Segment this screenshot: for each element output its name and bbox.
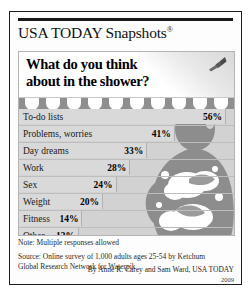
water-droplet	[151, 98, 165, 109]
bar-row: Sex24%	[19, 177, 234, 194]
byline-block: By Anne R. Carey and Sam Ward, USA TODAY…	[88, 265, 234, 283]
water-droplet	[193, 98, 207, 109]
droplet-band	[19, 98, 234, 109]
bars-area: To-do lists56%Problems, worries41%Day dr…	[19, 109, 234, 236]
bar: Weight20%	[19, 194, 103, 209]
snapshot-frame: USA TODAY Snapshots® What do you think a…	[9, 11, 242, 285]
bar: To-do lists56%	[19, 109, 226, 124]
water-droplet	[67, 98, 81, 109]
chart-title-line-1: What do you think	[26, 56, 149, 73]
brand-text: USA TODAY Snapshots	[18, 24, 167, 41]
bar: Other13%	[19, 228, 79, 236]
chart-panel: What do you think about in the shower?	[18, 51, 235, 236]
bar-value: 41%	[144, 129, 171, 139]
bar-row: Weight20%	[19, 194, 234, 211]
water-droplet	[25, 98, 39, 109]
bar-value: 13%	[48, 231, 75, 237]
bar-label: Sex	[23, 180, 37, 190]
water-droplet	[172, 98, 186, 109]
water-droplet	[130, 98, 144, 109]
bar-value: 14%	[51, 214, 78, 224]
byline-credit: By Anne R. Carey and Sam Ward, USA TODAY	[88, 265, 234, 274]
bar: Day dreams33%	[19, 143, 147, 158]
bar-row: Problems, worries41%	[19, 126, 234, 143]
bar-label: Weight	[23, 197, 50, 207]
masthead-title: USA TODAY Snapshots®	[18, 24, 233, 42]
bar-label: Problems, worries	[23, 129, 92, 139]
bar-value: 24%	[86, 180, 113, 190]
bar-value: 28%	[99, 163, 126, 173]
bar: Sex24%	[19, 177, 117, 192]
note-text: Note: Multiple responses allowed	[18, 238, 235, 247]
bar: Work28%	[19, 160, 130, 175]
registered-mark: ®	[167, 24, 173, 33]
bar-label: Day dreams	[23, 146, 69, 156]
bar-row: Work28%	[19, 160, 234, 177]
bar: Fitness14%	[19, 211, 82, 226]
chart-title: What do you think about in the shower?	[26, 56, 149, 90]
chart-title-zone: What do you think about in the shower?	[19, 52, 234, 98]
bar-label: Work	[23, 163, 44, 173]
bar-label: Fitness	[23, 214, 50, 224]
source-line-1: Source: Online survey of 1,000 adults ag…	[18, 252, 235, 262]
water-droplet	[214, 98, 228, 109]
bar-label: Other	[23, 231, 45, 237]
bar-row: Day dreams33%	[19, 143, 234, 160]
water-droplet	[88, 98, 102, 109]
masthead: USA TODAY Snapshots®	[18, 18, 233, 42]
showerhead-icon	[199, 56, 227, 72]
bar-value: 20%	[72, 197, 99, 207]
bar-row: Fitness14%	[19, 211, 234, 228]
chart-title-line-2: about in the shower?	[26, 73, 149, 90]
bar-row: To-do lists56%	[19, 109, 234, 126]
bar-row: Other13%	[19, 228, 234, 236]
masthead-rule	[18, 18, 233, 21]
byline-year: 2009	[88, 276, 234, 283]
bar: Problems, worries41%	[19, 126, 175, 141]
bar-value: 33%	[116, 146, 143, 156]
water-droplet	[109, 98, 123, 109]
water-droplet	[46, 98, 60, 109]
bar-value: 56%	[195, 112, 222, 122]
bar-label: To-do lists	[23, 112, 63, 122]
